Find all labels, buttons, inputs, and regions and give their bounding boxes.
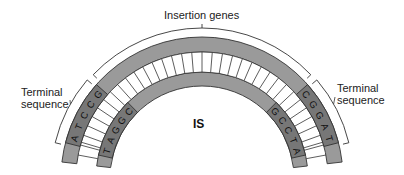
terminal-right-leader — [334, 97, 335, 104]
terminal-sequence-left-label: Terminal sequence — [21, 86, 69, 110]
terminal-left-line2: sequence — [21, 98, 69, 110]
terminal-right-line1: Terminal — [337, 82, 385, 94]
terminal-left-line1: Terminal — [21, 86, 69, 98]
base-pair-rung — [306, 155, 326, 159]
is-center-label: IS — [193, 117, 204, 131]
terminal-right-line2: sequence — [337, 94, 385, 106]
terminal-sequence-right-label: Terminal sequence — [337, 82, 385, 106]
base-pair-rung — [78, 155, 98, 159]
insertion-genes-label: Insertion genes — [164, 9, 239, 21]
